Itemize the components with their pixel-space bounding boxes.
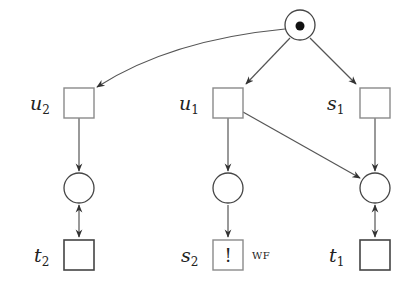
place-left (64, 173, 94, 203)
petri-net-diagram: u2 u1 s1 t2 s2 t1 ! WF (0, 0, 412, 282)
label-s2: s2 (181, 244, 198, 269)
arc-p0-u1 (246, 38, 290, 84)
place-middle (213, 173, 243, 203)
token-icon (296, 22, 305, 31)
transition-u2 (64, 88, 94, 118)
arc-p0-s1 (310, 38, 356, 84)
arc-p0-u2 (97, 29, 285, 87)
transition-t1 (360, 240, 390, 270)
place-right (360, 173, 390, 203)
transition-t2 (64, 240, 94, 270)
label-t1: t1 (329, 244, 344, 269)
label-u1: u1 (179, 92, 199, 117)
label-t2: t2 (34, 244, 49, 269)
transition-s1 (360, 88, 390, 118)
transition-u1 (213, 88, 243, 118)
exclamation-mark: ! (224, 245, 231, 266)
label-u2: u2 (30, 92, 50, 117)
label-s1: s1 (327, 92, 344, 117)
arc-u1-pright (243, 112, 360, 178)
annotation-wf: WF (252, 250, 270, 261)
